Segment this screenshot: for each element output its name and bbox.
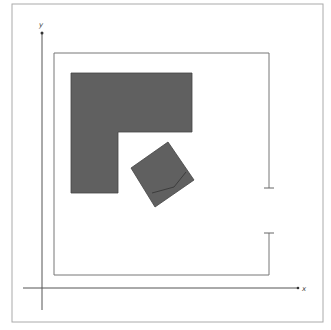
x-axis-arrow bbox=[297, 287, 300, 290]
y-axis-arrow bbox=[41, 32, 44, 35]
x-axis-label: x bbox=[301, 285, 307, 293]
diagram-canvas: y x bbox=[0, 0, 331, 330]
rotated-square-obstacle bbox=[131, 142, 194, 207]
y-axis-label: y bbox=[38, 21, 44, 29]
